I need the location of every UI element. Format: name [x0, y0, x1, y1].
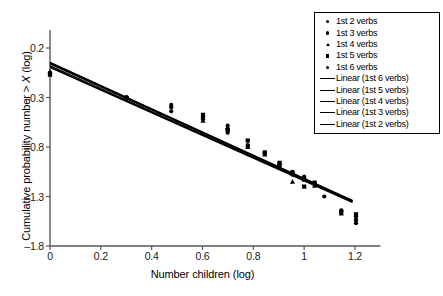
marker-circle-icon-glyph: [326, 66, 329, 69]
legend-item: 1st 4 verbs: [319, 39, 436, 50]
data-point-circle: [354, 219, 358, 223]
legend-item-label: Linear (1st 5 verbs): [336, 85, 409, 96]
data-point-triangle: [290, 179, 295, 184]
trendline-icon: [319, 90, 336, 91]
trendline: [50, 67, 352, 202]
marker-circle-icon: [319, 31, 336, 34]
legend-item-label: 1st 6 verbs: [336, 62, 377, 73]
data-point-circle: [290, 173, 294, 177]
marker-circle-icon: [319, 66, 336, 69]
marker-triangle-icon-glyph: [326, 43, 330, 46]
legend-item-label: Linear (1st 2 verbs): [336, 119, 409, 130]
data-point-circle: [312, 183, 316, 187]
chart-legend: 1st 2 verbs1st 3 verbs1st 4 verbs1st 5 v…: [314, 12, 440, 134]
legend-item: 1st 2 verbs: [319, 16, 436, 27]
data-point-circle: [322, 194, 326, 198]
trendlines: [50, 62, 352, 202]
trendline-icon-glyph: [320, 101, 335, 102]
data-point-circle: [48, 71, 52, 75]
data-point-circle: [124, 96, 128, 100]
data-points: [48, 69, 359, 225]
data-point-circle: [169, 105, 173, 109]
legend-item-label: Linear (1st 4 verbs): [336, 96, 409, 107]
trendline-icon: [319, 101, 336, 102]
legend-item-label: 1st 2 verbs: [336, 16, 377, 27]
trendline-icon: [319, 78, 336, 79]
data-point-square: [339, 210, 343, 214]
marker-circle-icon: [319, 20, 336, 23]
data-point-square: [226, 128, 230, 132]
marker-circle-icon-glyph: [326, 20, 329, 23]
data-point-square: [302, 185, 306, 189]
trendline-icon: [319, 112, 336, 113]
x-tick-label: 0.6: [196, 250, 210, 262]
y-axis-title-variable: X: [20, 76, 32, 83]
trendline-icon: [319, 124, 336, 125]
data-point-circle: [201, 116, 205, 120]
data-point-circle: [246, 145, 250, 149]
data-point-circle: [302, 177, 306, 181]
legend-item: Linear (1st 5 verbs): [319, 84, 436, 95]
data-point-square: [354, 212, 358, 216]
y-axis-title: Cumulative probability number > X (log): [20, 41, 32, 251]
legend-item-label: Linear (1st 6 verbs): [336, 73, 409, 84]
x-tick-label: 0.2: [94, 250, 108, 262]
legend-item: Linear (1st 3 verbs): [319, 107, 436, 118]
data-point-square: [246, 138, 250, 142]
marker-circle-icon-glyph: [326, 31, 329, 34]
legend-item: 1st 3 verbs: [319, 27, 436, 38]
data-point-circle: [226, 124, 230, 128]
legend-item: Linear (1st 6 verbs): [319, 73, 436, 84]
trendline-icon-glyph: [320, 124, 335, 125]
legend-item: 1st 5 verbs: [319, 50, 436, 61]
legend-item-label: 1st 3 verbs: [336, 28, 377, 39]
data-point-circle: [277, 164, 281, 168]
x-tick-label: 0.4: [145, 250, 159, 262]
x-tick-label: 1: [301, 250, 307, 262]
marker-square-icon: [319, 54, 336, 57]
marker-square-icon-glyph: [326, 54, 329, 57]
legend-item-label: 1st 4 verbs: [336, 39, 377, 50]
legend-item-label: 1st 5 verbs: [336, 50, 377, 61]
trendline-icon-glyph: [320, 90, 335, 91]
marker-triangle-icon: [319, 43, 336, 46]
x-tick-label: 0.8: [246, 250, 260, 262]
data-point-circle: [169, 109, 173, 113]
x-tick-label: 0: [47, 250, 53, 262]
data-point-circle: [263, 151, 267, 155]
legend-item-label: Linear (1st 3 verbs): [336, 107, 409, 118]
legend-item: Linear (1st 2 verbs): [319, 119, 436, 130]
y-axis-title-prefix: Cumulative probability number >: [20, 83, 32, 241]
chart-figure: 00.20.40.60.811.2 0.2–0.3–0.8–1.3–1.8 Nu…: [0, 0, 443, 296]
x-tick-label: 1.2: [348, 250, 362, 262]
trendline-icon-glyph: [320, 78, 335, 79]
legend-item: Linear (1st 4 verbs): [319, 96, 436, 107]
y-axis-title-suffix: (log): [20, 51, 32, 75]
trendline-icon-glyph: [320, 112, 335, 113]
legend-item: 1st 6 verbs: [319, 62, 436, 73]
x-axis-title: Number children (log): [50, 268, 355, 280]
trendline: [50, 64, 352, 201]
